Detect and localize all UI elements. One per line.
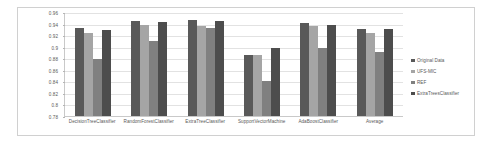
bars-layer [65,13,403,116]
bar[interactable] [318,48,327,116]
bar[interactable] [309,26,318,116]
y-axis-tick-label: 0.88 [49,57,58,62]
chart-frame: 0.780.80.820.840.860.880.90.920.940.96 D… [17,7,475,136]
y-axis-tick-label: 0.78 [49,115,58,120]
y-axis-tick-mark [63,71,65,72]
bar[interactable] [375,52,384,116]
legend-label: Original Data [417,58,444,63]
y-axis-tick-mark [63,105,65,106]
y-axis-tick-label: 0.84 [49,80,58,85]
y-axis-tick-mark [63,48,65,49]
legend-label: ExtraTreesClassifier [417,91,459,96]
y-axis-tick-label: 0.86 [49,68,58,73]
bar-group [178,13,234,116]
x-axis-tick-label: AdaBoostClassifier [290,119,347,124]
legend-swatch-icon [411,59,415,63]
bar[interactable] [197,26,206,116]
legend-swatch-icon [411,70,415,74]
bar[interactable] [366,33,375,116]
x-axis-tick-label: Average [347,119,404,124]
x-axis-tick-label: SupportVectorMachine [234,119,291,124]
bar[interactable] [149,41,158,116]
bar[interactable] [206,28,215,116]
x-axis-tick-label: RandomForestClassifier [121,119,178,124]
plot-wrapper: 0.780.80.820.840.860.880.90.920.940.96 D… [39,13,403,133]
bar[interactable] [300,23,309,116]
y-axis: 0.780.80.820.840.860.880.90.920.940.96 [39,13,61,117]
y-axis-tick-mark [63,25,65,26]
legend-item[interactable]: REF [411,77,473,88]
bar-group [65,13,121,116]
legend-item[interactable]: UFS-MIC [411,66,473,77]
y-axis-tick-label: 0.94 [49,22,58,27]
bar-group [121,13,177,116]
bar[interactable] [131,21,140,116]
bar[interactable] [244,55,253,116]
y-axis-tick-mark [63,117,65,118]
legend-label: UFS-MIC [417,69,437,74]
y-axis-tick-mark [63,13,65,14]
x-axis: DecisionTreeClassifierRandomForestClassi… [64,119,403,124]
x-axis-tick-label: DecisionTreeClassifier [64,119,121,124]
y-axis-tick-label: 0.92 [49,34,58,39]
bar-group [347,13,403,116]
bar[interactable] [102,30,111,116]
bar[interactable] [262,81,271,116]
y-axis-tick-mark [63,94,65,95]
y-axis-tick-label: 0.8 [51,103,58,108]
bar[interactable] [75,28,84,116]
y-axis-tick-mark [63,59,65,60]
legend-item[interactable]: ExtraTreesClassifier [411,88,473,99]
y-axis-tick-mark [63,36,65,37]
bar[interactable] [384,29,393,116]
bar[interactable] [357,29,366,116]
bar[interactable] [140,25,149,116]
y-axis-tick-label: 0.82 [49,91,58,96]
y-axis-tick-label: 0.9 [51,45,58,50]
legend-swatch-icon [411,81,415,85]
legend-label: REF [417,80,426,85]
bar[interactable] [253,55,262,116]
plot-area [64,13,403,117]
chart-legend: Original DataUFS-MICREFExtraTreesClassif… [411,55,473,99]
bar[interactable] [84,33,93,116]
bar[interactable] [271,48,280,116]
bar[interactable] [215,21,224,116]
bar[interactable] [188,20,197,116]
y-axis-tick-label: 0.96 [49,11,58,16]
bar[interactable] [327,25,336,116]
legend-swatch-icon [411,92,415,96]
bar-group [234,13,290,116]
bar[interactable] [93,59,102,116]
bar-group [290,13,346,116]
x-axis-tick-label: ExtraTreeClassifier [177,119,234,124]
y-axis-tick-mark [63,82,65,83]
bar[interactable] [158,22,167,116]
legend-item[interactable]: Original Data [411,55,473,66]
